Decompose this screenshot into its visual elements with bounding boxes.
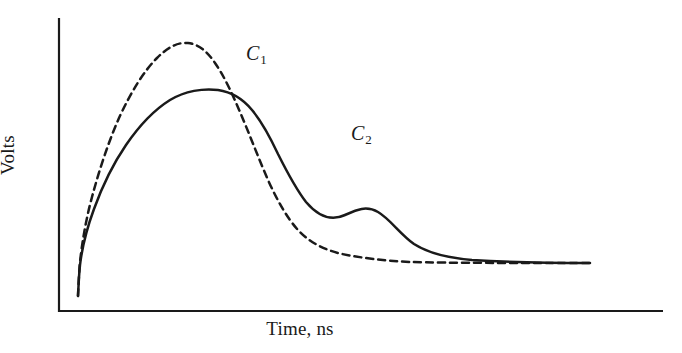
curve-label-c2-letter: C bbox=[351, 122, 364, 144]
curve-label-c2: C2 bbox=[351, 122, 371, 145]
curve-label-c1-letter: C bbox=[246, 42, 259, 64]
curve-c1-dashed bbox=[78, 43, 590, 296]
y-axis-label: Volts bbox=[0, 125, 19, 185]
x-axis-label: Time, ns bbox=[200, 318, 400, 340]
axes-group bbox=[58, 18, 663, 312]
figure-container: Volts Time, ns C1 C2 bbox=[0, 0, 682, 353]
curve-label-c1-subscript: 1 bbox=[260, 52, 267, 67]
curve-label-c1: C1 bbox=[246, 42, 266, 65]
curve-label-c2-subscript: 2 bbox=[365, 132, 372, 147]
plot-canvas bbox=[0, 0, 682, 353]
curve-c2-solid bbox=[78, 89, 590, 296]
series-group bbox=[78, 43, 590, 296]
